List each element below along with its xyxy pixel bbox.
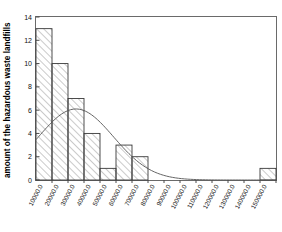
x-ticklabel: 20000.0 bbox=[43, 183, 60, 207]
bar bbox=[84, 133, 100, 180]
x-ticklabel: 90000.0 bbox=[155, 183, 172, 207]
y-ticklabel: 4 bbox=[28, 130, 32, 137]
bar bbox=[116, 145, 132, 180]
y-ticklabel: 14 bbox=[24, 14, 32, 21]
y-ticklabel: 8 bbox=[28, 83, 32, 90]
x-ticklabel: 50000.0 bbox=[91, 183, 108, 207]
bar bbox=[100, 168, 116, 180]
x-ticklabel: 10000.0 bbox=[27, 183, 44, 207]
x-axis: 10000.020000.030000.040000.050000.060000… bbox=[27, 180, 276, 210]
x-ticklabel: 70000.0 bbox=[123, 183, 140, 207]
x-ticklabel: 150000.0 bbox=[249, 183, 268, 210]
bar bbox=[52, 64, 68, 180]
bar bbox=[260, 168, 276, 180]
y-ticklabel-group: 02468101214 bbox=[24, 14, 32, 184]
y-ticklabel: 6 bbox=[28, 107, 32, 114]
bars-group bbox=[36, 29, 276, 180]
y-ticklabel: 10 bbox=[24, 60, 32, 67]
x-ticklabel: 40000.0 bbox=[75, 183, 92, 207]
histogram-chart: 02468101214 10000.020000.030000.040000.0… bbox=[0, 0, 282, 232]
x-ticklabel: 30000.0 bbox=[59, 183, 76, 207]
x-ticklabel-group: 10000.020000.030000.040000.050000.060000… bbox=[27, 183, 268, 210]
y-ticklabel: 12 bbox=[24, 37, 32, 44]
y-ticklabel: 2 bbox=[28, 153, 32, 160]
y-ticklabel: 0 bbox=[28, 177, 32, 184]
bar bbox=[36, 29, 52, 180]
bar bbox=[132, 157, 148, 180]
chart-svg: 02468101214 10000.020000.030000.040000.0… bbox=[0, 0, 282, 232]
x-ticklabel: 60000.0 bbox=[107, 183, 124, 207]
x-ticklabel: 80000.0 bbox=[139, 183, 156, 207]
y-axis-title: amount of the hazardous waste landfills bbox=[3, 22, 12, 178]
bar bbox=[68, 99, 84, 181]
